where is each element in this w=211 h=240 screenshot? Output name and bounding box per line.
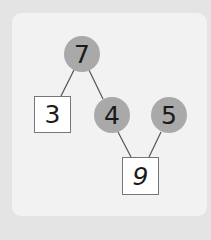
node-value: 4 (104, 101, 120, 130)
node-circle-4: 4 (94, 97, 130, 133)
node-circle-5: 5 (151, 97, 187, 133)
node-value: 5 (161, 101, 177, 130)
edge-7-4 (89, 70, 103, 99)
node-value: 9 (133, 162, 149, 191)
node-box-3: 3 (34, 96, 71, 133)
edge-5-9 (149, 132, 161, 157)
node-value: 7 (74, 40, 90, 69)
node-value: 3 (45, 100, 61, 129)
node-circle-7: 7 (64, 36, 100, 72)
edge-4-9 (118, 132, 131, 157)
edge-7-3 (61, 70, 74, 96)
node-box-9: 9 (122, 157, 159, 195)
